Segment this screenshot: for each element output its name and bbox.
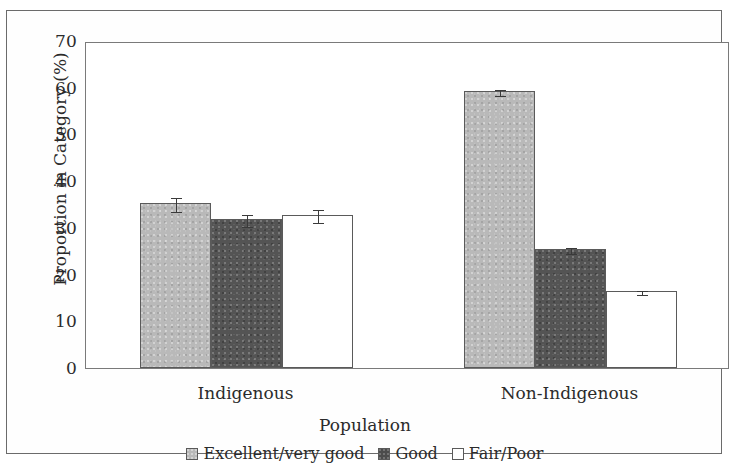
error-bar-cap (566, 254, 577, 255)
legend-label: Good (395, 444, 437, 463)
error-bar-cap (495, 90, 506, 91)
error-bar-cap (495, 96, 506, 97)
legend-swatch-icon (378, 448, 390, 460)
bar (211, 219, 282, 368)
legend-swatch-icon (186, 448, 198, 460)
plot-area (85, 42, 729, 369)
error-bar-cap (171, 198, 182, 199)
x-axis-tick-label: Non-Indigenous (460, 383, 680, 403)
x-axis-tick-label: Indigenous (136, 383, 356, 403)
error-bar-cap (171, 212, 182, 213)
error-bar-cap (637, 295, 648, 296)
error-bar-cap (242, 227, 253, 228)
error-bar-cap (637, 291, 648, 292)
error-bar-cap (313, 223, 324, 224)
error-bar-cap (313, 210, 324, 211)
bar (606, 291, 677, 368)
figure-root: 010203040506070 Proportion in Category (… (0, 0, 729, 464)
legend-label: Fair/Poor (469, 444, 544, 463)
legend-item: Excellent/very good (186, 444, 364, 463)
y-axis-tick-label: 10 (31, 313, 77, 330)
error-bar (176, 198, 177, 212)
bar (282, 215, 353, 368)
error-bar (318, 210, 319, 223)
y-axis-tick-label: 0 (31, 360, 77, 377)
x-axis-title: Population (7, 415, 723, 435)
error-bar-cap (242, 215, 253, 216)
figure-frame: 010203040506070 Proportion in Category (… (6, 10, 722, 454)
legend-item: Good (378, 444, 437, 463)
bar (464, 91, 535, 368)
legend-item: Fair/Poor (452, 444, 544, 463)
error-bar (247, 215, 248, 227)
bar (140, 203, 211, 368)
error-bar-cap (566, 248, 577, 249)
chart-legend: Excellent/very goodGoodFair/Poor (7, 444, 723, 463)
legend-label: Excellent/very good (203, 444, 364, 463)
bar (535, 249, 606, 368)
y-axis-title: Proportion in Category (%) (50, 39, 70, 299)
legend-swatch-icon (452, 448, 464, 460)
